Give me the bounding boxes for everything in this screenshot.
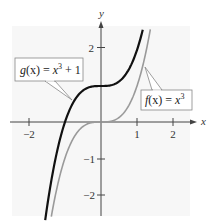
x-axis-arrow-icon xyxy=(190,120,197,125)
x-tick-label-2: 2 xyxy=(170,128,176,140)
g-annotation-box: g(x) = x3 + 1 xyxy=(15,58,83,81)
x-tick-label-neg2: −2 xyxy=(23,128,35,140)
y-tick-label-neg2: −2 xyxy=(83,189,95,201)
g-annotation-text: g(x) = x3 + 1 xyxy=(20,62,81,77)
x-tick-label-1: 1 xyxy=(134,128,140,140)
x-axis-label: x xyxy=(200,115,206,127)
f-annotation-text: f(x) = x3 xyxy=(145,92,184,107)
chart-svg: −2 1 2 2 −1 −2 x y g(x) = x3 + 1 f xyxy=(0,0,210,224)
chart-root: −2 1 2 2 −1 −2 x y g(x) = x3 + 1 f xyxy=(0,0,210,224)
y-tick-label-neg1: −1 xyxy=(83,153,95,165)
y-axis-label: y xyxy=(98,7,104,19)
y-tick-label-2: 2 xyxy=(89,42,95,54)
y-axis-arrow-icon xyxy=(99,21,104,28)
f-annotation-box: f(x) = x3 xyxy=(141,90,192,110)
